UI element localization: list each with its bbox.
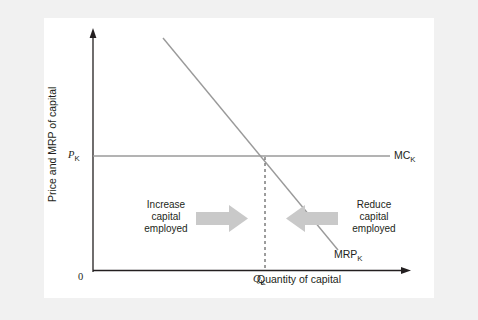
increase-capital-note: Increase capital employed: [137, 199, 195, 234]
price-label-subscript: K: [74, 154, 79, 163]
reduce-capital-note: Reduce capital employed: [345, 199, 403, 234]
x-axis-title-text: Quantity of capital: [257, 273, 341, 285]
mc-curve-label-text: MC: [394, 149, 410, 161]
increase-arrow-icon: [196, 205, 248, 232]
reduce-note-line-1: Reduce: [345, 199, 403, 211]
price-axis-label: PK: [68, 149, 80, 163]
quantity-label-text: Q: [253, 273, 261, 284]
mrp-curve-label-subscript: K: [357, 254, 362, 263]
increase-note-line-2: capital: [137, 211, 195, 223]
y-axis-title: Price and MRP of capital: [46, 184, 58, 202]
y-axis-title-text: Price and MRP of capital: [46, 87, 58, 202]
mc-curve-label: MCK: [394, 149, 416, 164]
reduce-arrow-icon: [286, 205, 338, 232]
mc-curve-label-subscript: K: [410, 155, 415, 164]
reduce-note-line-3: employed: [345, 223, 403, 235]
mrp-curve-label: MRPK: [334, 248, 363, 263]
quantity-axis-label: QK: [253, 273, 266, 287]
x-axis-title: Quantity of capital: [257, 273, 341, 285]
mrp-curve-label-text: MRP: [334, 248, 357, 260]
quantity-label-subscript: K: [261, 278, 266, 287]
origin-label: 0: [78, 271, 83, 283]
increase-note-line-1: Increase: [137, 199, 195, 211]
x-axis-arrowhead: [401, 267, 411, 274]
increase-note-line-3: employed: [137, 223, 195, 235]
figure-container: Price and MRP of capital Quantity of cap…: [0, 0, 478, 320]
y-axis-arrowhead: [90, 28, 97, 38]
reduce-note-line-2: capital: [345, 211, 403, 223]
origin-label-text: 0: [78, 271, 83, 282]
